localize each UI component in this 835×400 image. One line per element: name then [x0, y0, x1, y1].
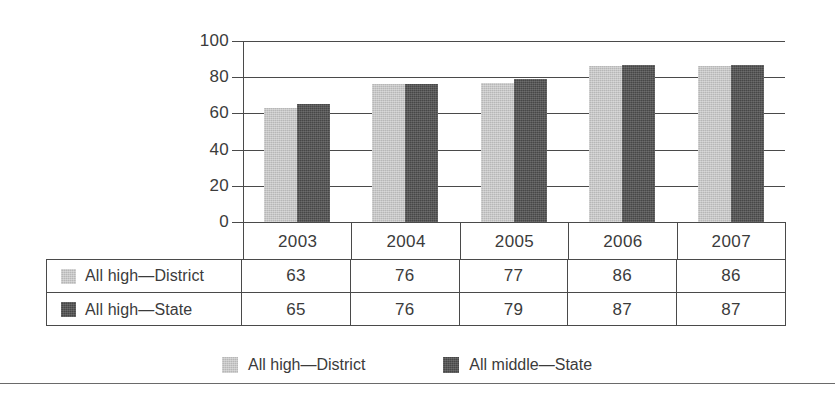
series-swatch-district-icon: [61, 269, 76, 284]
tick-100: [232, 41, 243, 42]
table-row: All high—District 63 76 77 86 86: [47, 260, 785, 293]
tick-20: [232, 186, 243, 187]
data-table: All high—District 63 76 77 86 86 All hig…: [46, 259, 786, 326]
y-tick-label-40: 40: [209, 140, 229, 160]
bar-group-2005: [460, 41, 568, 222]
year-cell-2005: 2005: [461, 223, 569, 260]
bar-state-2005[interactable]: [514, 79, 547, 222]
row-label-state: All high—State: [47, 293, 242, 326]
bar-state-2006[interactable]: [622, 65, 655, 223]
bar-group-2007: [677, 41, 785, 222]
plot-area: 100 80 60 40 20 0: [243, 41, 785, 222]
year-header-row: 2003 2004 2005 2006 2007: [243, 222, 786, 260]
legend-swatch-district-icon: [222, 357, 238, 373]
bar-district-2004[interactable]: [372, 84, 405, 222]
bar-district-2003[interactable]: [264, 108, 297, 222]
bar-district-2006[interactable]: [589, 66, 622, 222]
bar-group-2003: [243, 41, 351, 222]
cell-state-2006: 87: [568, 293, 677, 326]
legend-swatch-state-icon: [443, 357, 459, 373]
cell-state-2005: 79: [460, 293, 569, 326]
table-row: All high—State 65 76 79 87 87: [47, 293, 785, 326]
cell-state-2004: 76: [351, 293, 460, 326]
footer-divider: [0, 383, 835, 384]
year-cell-2007: 2007: [678, 223, 785, 260]
cell-district-2004: 76: [351, 260, 460, 292]
y-tick-label-20: 20: [209, 176, 229, 196]
year-cell-2003: 2003: [244, 223, 352, 260]
cell-district-2005: 77: [460, 260, 569, 292]
legend-item-state: All middle—State: [443, 356, 592, 374]
cell-state-2003: 65: [242, 293, 351, 326]
legend-label-state: All middle—State: [469, 356, 592, 374]
cell-district-2006: 86: [568, 260, 677, 292]
cell-district-2003: 63: [242, 260, 351, 292]
year-cell-2004: 2004: [352, 223, 460, 260]
bar-chart-figure: 100 80 60 40 20 0: [0, 0, 835, 400]
legend-item-district: All high—District: [222, 356, 365, 374]
row-label-district-text: All high—District: [85, 267, 204, 285]
bar-state-2003[interactable]: [297, 104, 330, 222]
tick-60: [232, 113, 243, 114]
bar-group-2004: [351, 41, 459, 222]
bar-state-2007[interactable]: [731, 65, 764, 223]
tick-40: [232, 150, 243, 151]
year-cell-2006: 2006: [569, 223, 677, 260]
bar-district-2005[interactable]: [481, 83, 514, 222]
row-label-district: All high—District: [47, 260, 242, 292]
y-tick-label-100: 100: [200, 31, 229, 51]
y-tick-label-0: 0: [219, 212, 229, 232]
y-tick-label-80: 80: [209, 67, 229, 87]
tick-0: [232, 222, 243, 223]
chart-legend: All high—District All middle—State: [222, 355, 592, 375]
y-tick-label-60: 60: [209, 103, 229, 123]
series-swatch-state-icon: [61, 302, 76, 317]
bar-group-2006: [568, 41, 676, 222]
legend-label-district: All high—District: [248, 356, 365, 374]
tick-80: [232, 77, 243, 78]
row-label-state-text: All high—State: [85, 301, 192, 319]
bar-district-2007[interactable]: [698, 66, 731, 222]
cell-state-2007: 87: [677, 293, 785, 326]
bar-state-2004[interactable]: [405, 84, 438, 222]
cell-district-2007: 86: [677, 260, 785, 292]
